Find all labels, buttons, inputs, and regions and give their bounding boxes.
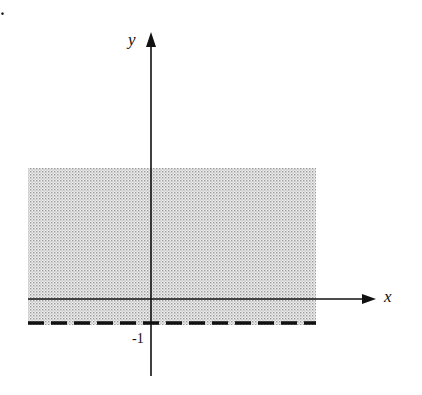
y-axis-arrow-icon xyxy=(146,32,156,47)
x-axis-arrow-icon xyxy=(362,294,376,304)
x-axis-label: x xyxy=(384,287,392,307)
y-axis-label: y xyxy=(128,30,136,50)
graph-figure: . y x -1 xyxy=(0,0,422,395)
graph-canvas xyxy=(0,0,422,395)
y-tick-label-neg1: -1 xyxy=(132,331,144,347)
shaded-region xyxy=(28,168,316,325)
